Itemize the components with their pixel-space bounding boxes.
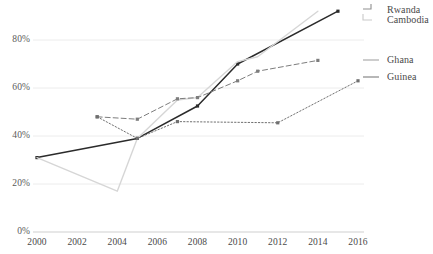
legend-marker xyxy=(363,14,372,20)
data-point-marker xyxy=(136,137,139,140)
data-point-marker xyxy=(196,104,199,107)
x-tick-label: 2010 xyxy=(221,237,255,247)
chart-canvas xyxy=(0,0,433,254)
series-group xyxy=(35,10,359,192)
data-point-marker xyxy=(236,79,239,82)
x-tick-label: 2012 xyxy=(261,237,295,247)
data-point-marker xyxy=(96,115,99,118)
data-point-marker xyxy=(336,10,339,13)
data-point-marker xyxy=(276,121,279,124)
x-tick-label: 2008 xyxy=(181,237,215,247)
x-tick-label: 2000 xyxy=(20,237,54,247)
x-tick-label: 2014 xyxy=(301,237,335,247)
series-line-cambodia xyxy=(37,11,318,191)
data-point-marker xyxy=(316,59,319,62)
x-tick-label: 2002 xyxy=(60,237,94,247)
y-tick-label: 80% xyxy=(0,34,30,44)
gridlines-group xyxy=(33,40,364,232)
y-tick-label: 40% xyxy=(0,130,30,140)
legend-markers-group xyxy=(363,4,379,77)
legend-marker xyxy=(363,4,371,9)
x-tick-label: 2004 xyxy=(100,237,134,247)
legend-item-guinea[interactable]: Guinea xyxy=(387,71,416,82)
data-point-marker xyxy=(256,70,259,73)
x-tick-label: 2016 xyxy=(341,237,375,247)
data-point-marker xyxy=(136,118,139,121)
data-point-marker xyxy=(176,97,179,100)
legend-item-cambodia[interactable]: Cambodia xyxy=(387,14,429,25)
line-chart: 0%20%40%60%80% 2000200220042006200820102… xyxy=(0,0,433,254)
legend-item-ghana[interactable]: Ghana xyxy=(387,54,414,65)
data-point-marker xyxy=(196,96,199,99)
series-line-ghana xyxy=(97,60,318,119)
y-tick-label: 60% xyxy=(0,82,30,92)
y-tick-label: 0% xyxy=(0,226,30,236)
x-tick-label: 2006 xyxy=(140,237,174,247)
data-point-marker xyxy=(176,120,179,123)
series-line-guinea xyxy=(97,81,358,139)
data-point-marker xyxy=(356,79,359,82)
y-tick-label: 20% xyxy=(0,178,30,188)
